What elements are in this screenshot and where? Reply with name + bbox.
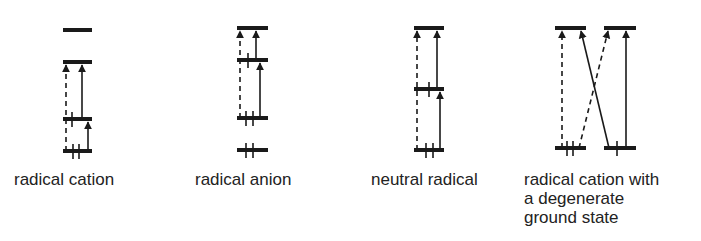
energy-level	[414, 148, 444, 152]
energy-level	[63, 60, 92, 64]
transition-arrow-solid	[581, 31, 609, 148]
panel-radical-cation-degenerate	[555, 26, 636, 156]
panel-neutral-radical	[414, 26, 444, 158]
energy-level	[604, 146, 636, 150]
energy-level	[555, 146, 586, 150]
transition-arrow-dashed	[579, 31, 608, 148]
panel-label: radical anion	[195, 170, 291, 189]
energy-level	[604, 26, 636, 30]
panel-label: radical cation with a degenerate ground …	[524, 170, 659, 227]
energy-level	[63, 149, 92, 153]
panel-label: neutral radical	[371, 170, 478, 189]
panel-label: radical cation	[14, 170, 114, 189]
energy-level	[555, 26, 586, 30]
energy-level	[63, 117, 92, 121]
energy-level	[237, 58, 268, 62]
panel-radical-anion	[237, 26, 268, 158]
panel-radical-cation	[63, 28, 92, 159]
energy-level	[414, 26, 444, 30]
energy-level	[63, 28, 92, 32]
energy-level	[237, 26, 268, 30]
